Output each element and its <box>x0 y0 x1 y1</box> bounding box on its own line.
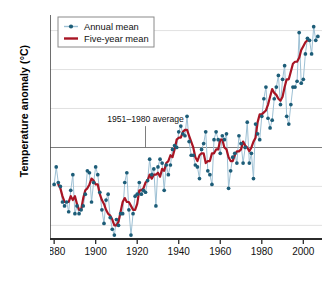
annual-mean-marker <box>59 185 63 189</box>
annual-mean-marker <box>110 227 114 231</box>
annual-mean-marker <box>71 173 75 177</box>
annual-mean-marker <box>247 161 251 165</box>
annual-mean-marker <box>258 138 262 142</box>
annual-mean-marker <box>81 204 85 208</box>
annual-mean-marker <box>281 77 285 81</box>
annual-mean-marker <box>268 126 272 130</box>
annual-mean-marker <box>212 138 216 142</box>
x-tick-label: 1880 <box>50 246 66 257</box>
legend-label: Annual mean <box>84 22 139 32</box>
annual-mean-marker <box>127 208 131 212</box>
x-tick-label: 1960 <box>209 246 232 257</box>
annual-mean-marker <box>289 103 293 107</box>
annual-mean-marker <box>295 79 299 83</box>
annual-mean-marker <box>156 165 160 169</box>
annual-mean-marker <box>229 169 233 173</box>
temperature-anomaly-chart: Temperature anomaly (°C) −.4−.2.0.2.4.61… <box>0 0 334 297</box>
annual-mean-marker <box>270 118 274 122</box>
annual-mean-marker <box>297 31 301 35</box>
annual-mean-marker <box>237 134 241 138</box>
legend-swatch-marker <box>69 24 73 28</box>
annual-mean-marker <box>245 120 249 124</box>
annual-mean-marker <box>272 97 276 101</box>
annual-mean-marker <box>98 190 102 194</box>
annual-mean-marker <box>171 148 175 152</box>
annual-mean-marker <box>152 167 156 171</box>
annual-mean-marker <box>162 188 166 192</box>
annual-mean-marker <box>218 151 222 155</box>
annual-mean-marker <box>175 146 179 150</box>
plot-area: −.4−.2.0.2.4.618801900192019401960198020… <box>50 15 322 263</box>
annual-mean-marker <box>293 85 297 89</box>
annual-mean-marker <box>129 233 133 237</box>
annual-mean-marker <box>88 171 92 175</box>
annual-mean-marker <box>235 161 239 165</box>
annual-mean-marker <box>241 161 245 165</box>
chart-svg: −.4−.2.0.2.4.618801900192019401960198020… <box>50 15 322 263</box>
annual-mean-marker <box>283 64 287 68</box>
annual-mean-marker <box>206 169 210 173</box>
x-tick-label: 1980 <box>251 246 274 257</box>
annual-mean-marker <box>125 171 129 175</box>
annual-mean-marker <box>96 173 100 177</box>
annual-mean-marker <box>200 148 204 152</box>
x-tick-label: 1920 <box>126 246 149 257</box>
x-tick-label: 1900 <box>85 246 108 257</box>
annual-mean-marker <box>158 157 162 161</box>
annual-mean-marker <box>216 138 220 142</box>
annual-mean-marker <box>187 140 191 144</box>
annual-mean-marker <box>100 208 104 212</box>
annual-mean-marker <box>191 153 195 157</box>
annual-mean-marker <box>274 85 278 89</box>
annual-mean-marker <box>77 212 81 216</box>
annual-mean-marker <box>310 52 314 56</box>
annual-mean-marker <box>214 130 218 134</box>
annual-mean-marker <box>250 151 254 155</box>
annual-mean-marker <box>83 192 87 196</box>
annual-mean-marker <box>243 146 247 150</box>
annual-mean-marker <box>164 163 168 167</box>
annual-mean-marker <box>314 38 318 42</box>
x-tick-label: 1940 <box>168 246 191 257</box>
annual-mean-marker <box>169 163 173 167</box>
annual-mean-marker <box>256 132 260 136</box>
annual-mean-marker <box>239 142 243 146</box>
annual-mean-marker <box>204 130 208 134</box>
annual-mean-marker <box>121 212 125 216</box>
annual-mean-marker <box>140 192 144 196</box>
annual-mean-marker <box>223 138 227 142</box>
annual-mean-marker <box>299 81 303 85</box>
annual-mean-marker <box>198 177 202 181</box>
annual-mean-marker <box>108 216 112 220</box>
annual-mean-marker <box>73 212 77 216</box>
annual-mean-marker <box>104 198 108 202</box>
annual-mean-marker <box>233 151 237 155</box>
annual-mean-marker <box>75 204 79 208</box>
annual-mean-marker <box>167 173 171 177</box>
legend-label: Five-year mean <box>84 34 149 44</box>
annual-mean-marker <box>146 179 150 183</box>
annual-mean-marker <box>196 165 200 169</box>
annual-mean-marker <box>65 200 69 204</box>
annual-mean-marker <box>227 187 231 191</box>
annual-mean-marker <box>316 35 320 39</box>
annual-mean-marker <box>150 173 154 177</box>
annual-mean-marker <box>113 233 117 237</box>
annual-mean-marker <box>61 200 65 204</box>
annual-mean-marker <box>69 188 73 192</box>
annual-mean-marker <box>202 142 206 146</box>
annual-mean-marker <box>277 74 281 78</box>
annual-mean-marker <box>115 218 119 222</box>
annual-mean-marker <box>285 114 289 118</box>
average-period-annotation: 1951–1980 average <box>107 114 184 124</box>
annual-mean-marker <box>260 114 264 118</box>
annual-mean-marker <box>144 190 148 194</box>
annual-mean-marker <box>301 77 305 81</box>
annual-mean-marker <box>183 134 187 138</box>
annual-mean-marker <box>254 122 258 126</box>
annual-mean-marker <box>177 130 181 134</box>
annual-mean-marker <box>185 114 189 118</box>
annual-mean-marker <box>208 173 212 177</box>
annual-mean-marker <box>92 181 96 185</box>
annual-mean-marker <box>117 224 121 228</box>
